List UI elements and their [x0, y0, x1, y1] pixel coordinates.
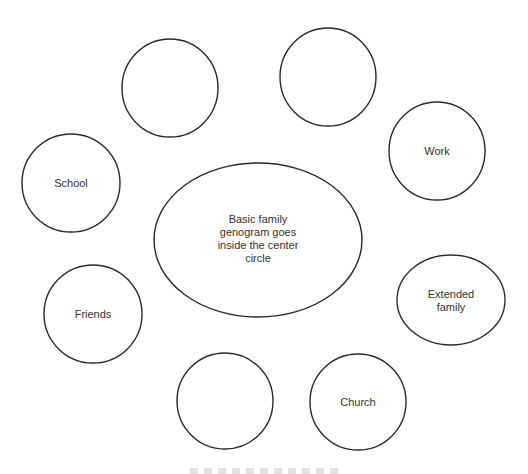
node-work: Work [389, 102, 485, 200]
center-genogram-ellipse: Basic familygenogram goesinside the cent… [154, 163, 362, 317]
node-circle [280, 28, 376, 126]
node-label: Church [340, 396, 375, 408]
figure-caption-cropped [0, 468, 528, 474]
label-line: circle [245, 252, 271, 264]
label-line: family [437, 301, 466, 313]
node-circle [122, 39, 218, 137]
caption-text-fragment [190, 468, 340, 474]
node-blank-top-right [280, 28, 376, 126]
node-church: Church [310, 354, 406, 450]
genogram-ecomap-diagram: WorkSchoolExtendedfamilyFriendsChurch Ba… [0, 0, 528, 474]
label-line: genogram goes [220, 226, 297, 238]
node-blank-bottom [177, 353, 273, 449]
node-blank-top-left [122, 39, 218, 137]
node-school: School [22, 134, 120, 232]
node-label: School [54, 177, 88, 189]
label-line: Extended [428, 288, 474, 300]
label-line: inside the center [218, 239, 299, 251]
node-label: Work [424, 145, 450, 157]
node-extended-family: Extendedfamily [397, 255, 505, 345]
label-line: Basic family [229, 213, 288, 225]
node-label: Friends [75, 308, 112, 320]
node-friends: Friends [44, 265, 142, 363]
node-circle [177, 353, 273, 449]
